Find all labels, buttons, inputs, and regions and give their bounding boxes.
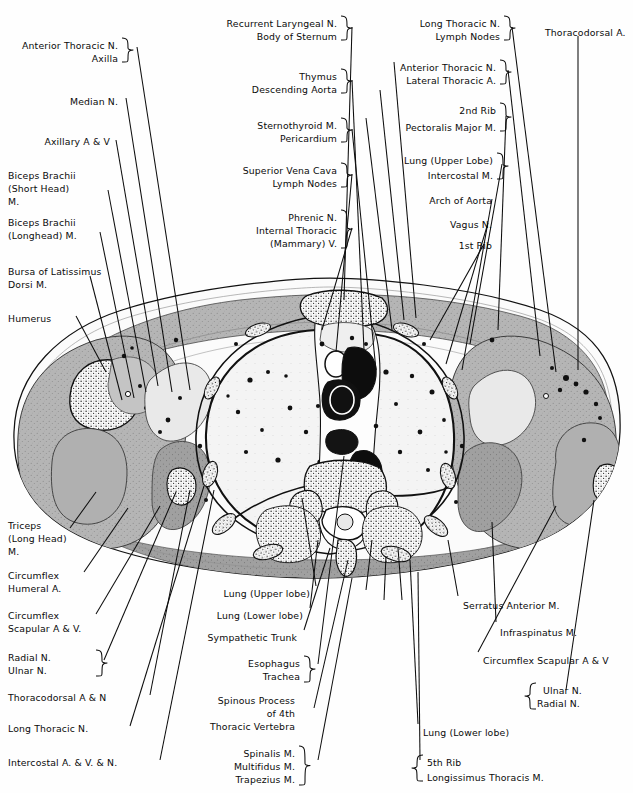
label-axillary-a-v: Axillary A & V [44,136,110,148]
label-1st-rib: 1st Rib [459,240,492,252]
anatomy-figure-page: Anterior Thoracic N.AxillaMedian N.Axill… [0,0,633,793]
label-lung-upper-lobe-bottom: Lung (Upper lobe) [224,588,310,600]
label-body-of-sternum: Body of Sternum [257,31,337,43]
label-lymph-nodes-center: Lymph Nodes [273,178,337,190]
label-of-4th: of 4th [267,708,295,720]
label-triceps-long-head-line1: (Long Head) [8,533,67,545]
thorax-cross-section-illustration [0,0,633,793]
label-ulnar-n-left: Ulnar N. [8,665,47,677]
label-radial-n-right: Radial N. [537,698,580,710]
label-bursa-of-latissimus-dorsi: Bursa of Latissimus [8,266,102,278]
label-triceps-long-head: Triceps [8,520,41,532]
label-bursa-of-latissimus-dorsi-line1: Dorsi M. [8,279,47,291]
label-biceps-brachii-short-head-line1: (Short Head) [8,183,69,195]
label-lung-lower-lobe-right: Lung (Lower lobe) [423,727,509,739]
label-spinous-process: Spinous Process [218,695,295,707]
label-thoracic-vertebra: Thoracic Vertebra [210,721,295,733]
label-intercostal-a-v-n: Intercostal A. & V. & N. [8,757,117,769]
label-arch-of-aorta: Arch of Aorta [429,195,492,207]
label-anterior-thoracic-n: Anterior Thoracic N. [22,40,118,52]
label-triceps-long-head-line2: M. [8,546,19,558]
label-thoracodorsal-a: Thoracodorsal A. [545,27,626,39]
label-long-thoracic-n-bottom: Long Thoracic N. [8,723,88,735]
label-thoracodorsal-a-n: Thoracodorsal A & N [8,692,106,704]
label-superior-vena-cava: Superior Vena Cava [243,165,337,177]
label-lung-lower-lobe-center: Lung (Lower lobe) [217,610,303,622]
label-pectoralis-major-m: Pectoralis Major M. [405,122,496,134]
label-vagus-n: Vagus N. [450,219,492,231]
label-axilla: Axilla [92,53,118,65]
label-5th-rib: 5th Rib [427,757,461,769]
label-mammary-v: (Mammary) V. [270,238,337,250]
label-pericardium: Pericardium [280,133,337,145]
label-biceps-brachii-short-head-line2: M. [8,196,19,208]
label-internal-thoracic: Internal Thoracic [256,225,337,237]
label-median-n: Median N. [70,96,118,108]
label-spinalis-m: Spinalis M. [243,748,295,760]
label-sympathetic-trunk: Sympathetic Trunk [208,632,297,644]
label-trachea: Trachea [263,671,300,683]
label-infraspinatus-m: Infraspinatus M. [500,627,577,639]
label-2nd-rib: 2nd Rib [459,105,496,117]
label-lung-upper-lobe-right: Lung (Upper Lobe) [404,155,493,167]
label-circumflex-humeral-a-line1: Humeral A. [8,583,61,595]
label-recurrent-laryngeal-n: Recurrent Laryngeal N. [227,18,337,30]
label-biceps-brachii-short-head: Biceps Brachii [8,170,76,182]
label-anterior-thoracic-n-right: Anterior Thoracic N. [400,62,496,74]
label-esophagus: Esophagus [248,658,300,670]
label-sternothyroid-m: Sternothyroid M. [257,120,337,132]
label-ulnar-n-right: Ulnar N. [543,685,582,697]
label-circumflex-scapular-a-v-right: Circumflex Scapular A & V [483,655,609,667]
label-long-thoracic-n-top: Long Thoracic N. [420,18,500,30]
label-lymph-nodes-right: Lymph Nodes [436,31,500,43]
label-multifidus-m: Multifidus M. [234,761,295,773]
label-circumflex-scapular-a-v-left: Circumflex [8,610,59,622]
label-circumflex-humeral-a: Circumflex [8,570,59,582]
label-biceps-brachii-longhead: Biceps Brachii [8,217,76,229]
label-descending-aorta: Descending Aorta [252,84,337,96]
label-lateral-thoracic-a: Lateral Thoracic A. [406,75,496,87]
label-circumflex-scapular-a-v-left-line1: Scapular A & V. [8,623,81,635]
label-thymus: Thymus [299,71,337,83]
label-humerus: Humerus [8,313,51,325]
label-phrenic-n: Phrenic N. [288,212,337,224]
label-serratus-anterior-m: Serratus Anterior M. [463,600,560,612]
label-biceps-brachii-longhead-line1: (Longhead) M. [8,230,77,242]
label-longissimus-thoracis-m: Longissimus Thoracis M. [427,772,544,784]
label-radial-n-left: Radial N. [8,652,51,664]
label-intercostal-m: Intercostal M. [428,170,493,182]
label-trapezius-m: Trapezius M. [236,774,295,786]
